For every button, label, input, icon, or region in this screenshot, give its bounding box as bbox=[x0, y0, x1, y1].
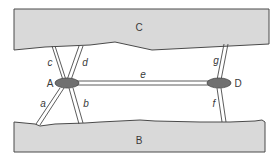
link-d bbox=[67, 46, 83, 80]
link-b-label: b bbox=[83, 98, 89, 109]
link-c-label: c bbox=[48, 57, 53, 68]
block-c-label: C bbox=[135, 22, 142, 33]
link-e bbox=[76, 81, 212, 85]
link-a-label: a bbox=[40, 98, 46, 109]
node-a bbox=[55, 78, 79, 88]
node-a-label: A bbox=[47, 78, 54, 89]
strut-diagram: C B A D a b c d e f g bbox=[0, 0, 276, 163]
link-c bbox=[52, 46, 66, 80]
link-d-label: d bbox=[82, 57, 88, 68]
link-g-label: g bbox=[213, 55, 219, 66]
node-d-label: D bbox=[234, 78, 241, 89]
link-e-label: e bbox=[140, 69, 146, 80]
node-d bbox=[207, 78, 231, 88]
link-f-label: f bbox=[213, 98, 217, 109]
block-b-label: B bbox=[136, 135, 143, 146]
link-f bbox=[217, 88, 226, 122]
link-b bbox=[69, 88, 83, 124]
